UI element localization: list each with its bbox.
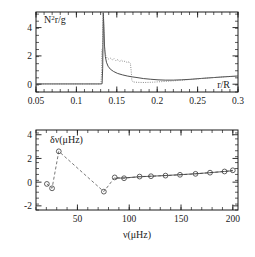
y-tick-label: -2 [24, 201, 32, 211]
y-tick-label: 2 [27, 154, 32, 164]
y-tick-label: 4 [27, 130, 32, 140]
x-tick-label: 100 [122, 214, 137, 224]
x-tick-label: 0.3 [232, 96, 244, 106]
y-tick-label: 2 [27, 51, 32, 61]
y-axis-title: N2r/g [44, 14, 66, 25]
y-tick-label: 0 [27, 178, 32, 188]
top-panel-plot: 0.050.10.150.20.250.3024N2r/gr/R [0, 0, 255, 122]
x-tick-label: 50 [73, 214, 83, 224]
series-solid-model [36, 13, 238, 84]
x-tick-label: 0.25 [189, 96, 206, 106]
plot-frame [36, 12, 238, 92]
x-tick-label: 0.05 [28, 96, 45, 106]
data-point-marker [44, 182, 49, 187]
x-tick-label: 0.2 [151, 96, 163, 106]
x-tick-label: 0.15 [108, 96, 125, 106]
y-axis-title: δν(μHz) [50, 134, 83, 146]
x-tick-label: 150 [174, 214, 189, 224]
bottom-panel: 50100150200-2024δν(μHz)ν(μHz) [0, 120, 255, 257]
x-tick-label: 0.1 [70, 96, 82, 106]
series-model-solid [115, 171, 233, 179]
y-tick-label: 4 [27, 23, 32, 33]
series-dotted-model [36, 13, 238, 84]
bottom-panel-plot: 50100150200-2024δν(μHz)ν(μHz) [0, 120, 255, 257]
series-observed-dashed [47, 151, 233, 191]
x-axis-title: r/R [217, 79, 230, 90]
data-point-marker [112, 175, 117, 180]
top-panel: 0.050.10.150.20.250.3024N2r/gr/R [0, 0, 255, 122]
x-tick-label: 200 [226, 214, 241, 224]
y-axis-title-rest: r/g [55, 14, 66, 25]
figure-root: 0.050.10.150.20.250.3024N2r/gr/R 5010015… [0, 0, 255, 257]
y-tick-label: 0 [27, 80, 32, 90]
x-axis-title: ν(μHz) [123, 229, 151, 241]
